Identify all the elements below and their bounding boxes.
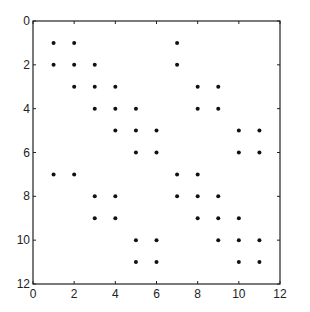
data-point [257, 151, 261, 155]
data-point [216, 238, 220, 242]
data-point [134, 107, 138, 111]
data-point [237, 216, 241, 220]
data-point [72, 85, 76, 89]
data-point [175, 172, 179, 176]
x-tick-label: 10 [232, 287, 246, 301]
data-point [196, 172, 200, 176]
data-point [216, 85, 220, 89]
y-tick-label: 8 [23, 189, 30, 203]
data-point [93, 63, 97, 67]
x-tick-label: 8 [194, 287, 201, 301]
y-tick-label: 6 [23, 146, 30, 160]
data-point [155, 260, 159, 264]
data-point [113, 107, 117, 111]
data-point [237, 238, 241, 242]
data-point [72, 41, 76, 45]
y-tick-label: 4 [23, 102, 30, 116]
y-tick-label: 0 [23, 14, 30, 28]
data-point [196, 194, 200, 198]
data-point [237, 151, 241, 155]
data-point [113, 129, 117, 133]
data-point [175, 41, 179, 45]
data-point [196, 85, 200, 89]
data-point [72, 172, 76, 176]
data-point [196, 107, 200, 111]
data-point [257, 238, 261, 242]
data-point [134, 238, 138, 242]
x-tick-label: 12 [273, 287, 287, 301]
x-tick-label: 6 [153, 287, 160, 301]
data-points [52, 41, 262, 264]
data-point [155, 129, 159, 133]
data-point [134, 260, 138, 264]
data-point [257, 260, 261, 264]
data-point [155, 151, 159, 155]
sparsity-plot: 024681012 024681012 [0, 0, 310, 312]
y-tick-label: 2 [23, 58, 30, 72]
data-point [175, 194, 179, 198]
y-tick-label: 10 [17, 233, 31, 247]
data-point [237, 260, 241, 264]
data-point [216, 216, 220, 220]
data-point [155, 238, 159, 242]
data-point [113, 85, 117, 89]
data-point [113, 216, 117, 220]
data-point [216, 194, 220, 198]
data-point [237, 129, 241, 133]
data-point [257, 129, 261, 133]
data-point [52, 172, 56, 176]
y-tick-label: 12 [17, 277, 31, 291]
data-point [175, 63, 179, 67]
data-point [52, 63, 56, 67]
data-point [93, 194, 97, 198]
x-tick-label: 4 [112, 287, 119, 301]
x-tick-labels: 024681012 [30, 287, 287, 301]
data-point [93, 107, 97, 111]
data-point [134, 129, 138, 133]
data-point [113, 194, 117, 198]
x-tick-label: 0 [30, 287, 37, 301]
y-tick-labels: 024681012 [17, 14, 31, 291]
data-point [196, 216, 200, 220]
data-point [72, 63, 76, 67]
data-point [52, 41, 56, 45]
data-point [93, 85, 97, 89]
data-point [93, 216, 97, 220]
data-point [216, 107, 220, 111]
data-point [134, 151, 138, 155]
x-tick-label: 2 [71, 287, 78, 301]
